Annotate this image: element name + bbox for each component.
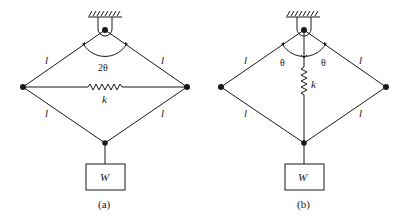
joint-left <box>20 84 26 90</box>
joint-bottom <box>301 140 307 146</box>
angle-arc-2theta <box>84 45 126 56</box>
angle-label-left: θ <box>280 57 285 68</box>
link-label-ul: l <box>244 54 247 66</box>
spring-label: k <box>102 93 108 105</box>
link-label-lr: l <box>359 107 362 119</box>
diagram-canvas: l l l l 2θ k W (a) <box>0 0 407 219</box>
joint-bottom <box>102 140 108 146</box>
link-upper-right <box>105 30 187 87</box>
pivot-joint-top <box>301 27 307 33</box>
spring-vertical <box>301 30 307 143</box>
link-lower-left <box>221 87 304 143</box>
link-upper-right <box>304 30 386 87</box>
link-label-ur: l <box>359 54 362 66</box>
spring-label: k <box>311 78 317 90</box>
joint-right <box>184 84 190 90</box>
link-label-ur: l <box>161 54 164 66</box>
link-upper-left <box>221 30 304 87</box>
link-lower-right <box>105 87 187 143</box>
caption-b: (b) <box>297 198 310 211</box>
joint-right <box>383 84 389 90</box>
pivot-joint-top <box>102 27 108 33</box>
link-upper-left <box>23 30 105 87</box>
link-lower-left <box>23 87 105 143</box>
caption-a: (a) <box>98 198 111 211</box>
figure-b <box>218 11 389 190</box>
link-label-ll: l <box>45 107 48 119</box>
link-label-ll: l <box>244 107 247 119</box>
angle-label-right: θ <box>321 57 326 68</box>
joint-left <box>218 84 224 90</box>
spring-horizontal <box>23 84 187 90</box>
link-label-ul: l <box>45 54 48 66</box>
link-label-lr: l <box>161 107 164 119</box>
figure-b-labels: l l l l θ θ k W (b) <box>244 54 362 211</box>
weight-label: W <box>100 171 110 183</box>
link-lower-right <box>304 87 386 143</box>
angle-label: 2θ <box>98 62 108 73</box>
figure-a-labels: l l l l 2θ k W (a) <box>45 54 164 211</box>
weight-label: W <box>298 171 308 183</box>
